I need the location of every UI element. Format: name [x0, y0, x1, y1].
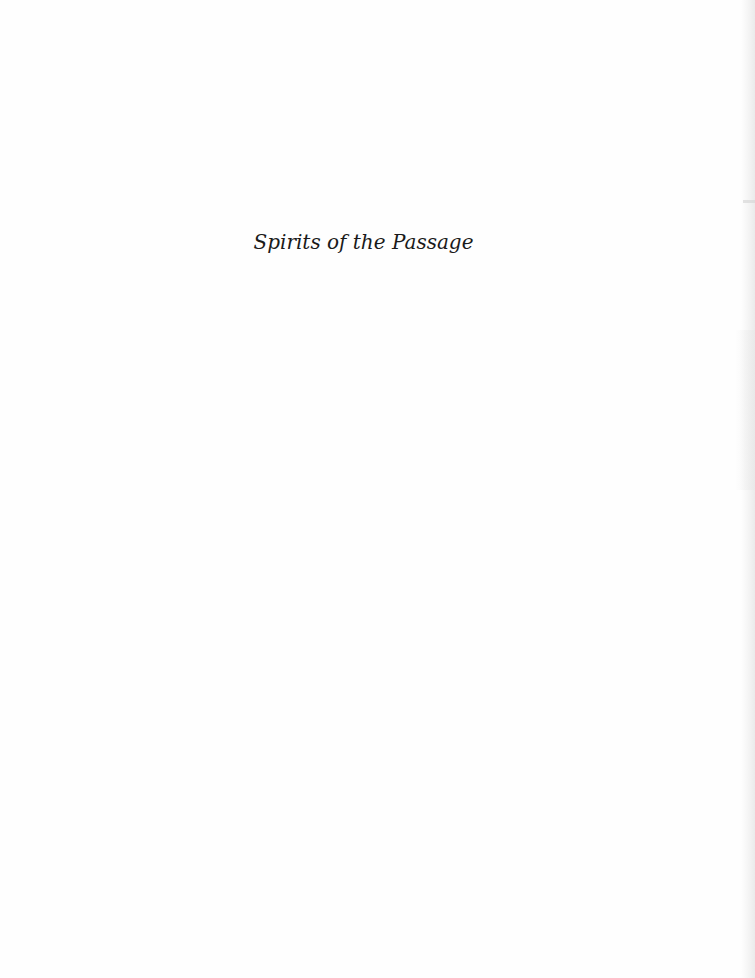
half-title: Spirits of the Passage — [0, 228, 727, 256]
book-page: Spirits of the Passage — [0, 0, 755, 978]
page-edge-mark — [743, 200, 755, 203]
page-edge-band — [735, 330, 755, 490]
